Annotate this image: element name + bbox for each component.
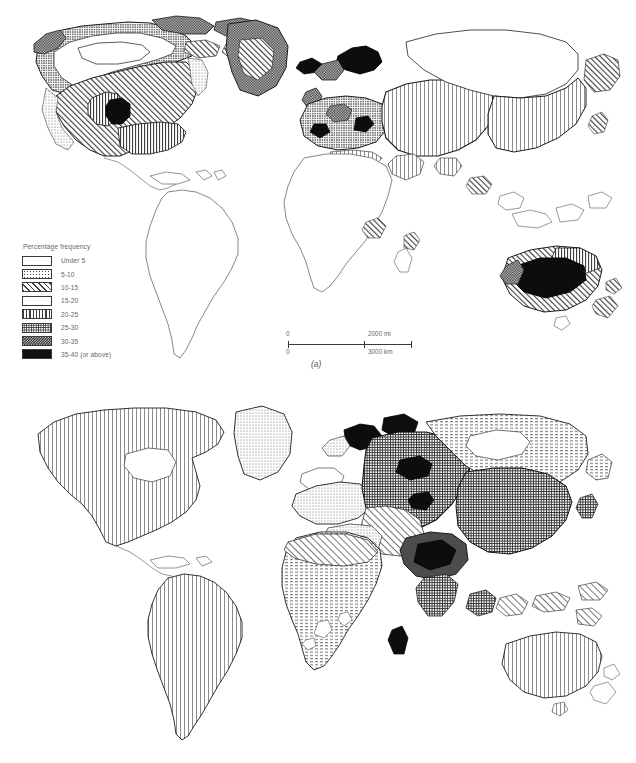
scale-tick-end: [411, 341, 412, 348]
legend-title: Percentage frequency: [23, 243, 111, 250]
world-map-b: [0, 382, 636, 763]
legend-swatch-15-20: [22, 296, 52, 306]
scale-tick-start: [288, 341, 289, 348]
legend-label: 15-20: [61, 297, 78, 304]
legend-figure-a: Percentage frequency Under 5 5-10 10-15 …: [22, 243, 111, 361]
scale-origin-bottom: 0: [286, 348, 290, 355]
legend-swatch-10-15: [22, 282, 52, 292]
figure-label-a: (a): [311, 359, 321, 369]
legend-label: 10-15: [61, 284, 78, 291]
figure-panel-a: Percentage frequency Under 5 5-10 10-15 …: [0, 0, 636, 382]
scale-line: [286, 341, 438, 348]
legend-item: 35-40 (or above): [22, 348, 111, 361]
legend-label: 5-10: [61, 271, 75, 278]
scale-max-km: 3000 km: [368, 348, 393, 355]
legend-item: 15-20: [22, 294, 111, 307]
scale-bar-a: 0 2000 mi 0 3000 km: [286, 330, 438, 360]
legend-swatch-35-40: [22, 349, 52, 359]
figure-panel-b: Percentage frequency 0-5 5-10 10-15 15-2…: [0, 382, 636, 763]
legend-label: 25-30: [61, 324, 78, 331]
legend-label: 30-35: [61, 338, 78, 345]
legend-swatch-under-5: [22, 256, 52, 266]
legend-swatch-5-10: [22, 269, 52, 279]
legend-swatch-20-25: [22, 309, 52, 319]
scale-origin-top: 0: [286, 330, 290, 337]
legend-item: 20-25: [22, 308, 111, 321]
legend-item: 10-15: [22, 281, 111, 294]
legend-swatch-25-30: [22, 323, 52, 333]
legend-swatch-30-35: [22, 336, 52, 346]
scale-max-miles: 2000 mi: [368, 330, 391, 337]
legend-item: 30-35: [22, 334, 111, 347]
legend-label: 35-40 (or above): [61, 351, 111, 358]
scale-tick-mid: [364, 341, 365, 348]
legend-label: Under 5: [61, 257, 85, 264]
scale-bar-line: [288, 344, 412, 345]
legend-item: 5-10: [22, 267, 111, 280]
legend-item: 25-30: [22, 321, 111, 334]
legend-item: Under 5: [22, 254, 111, 267]
legend-label: 20-25: [61, 311, 78, 318]
